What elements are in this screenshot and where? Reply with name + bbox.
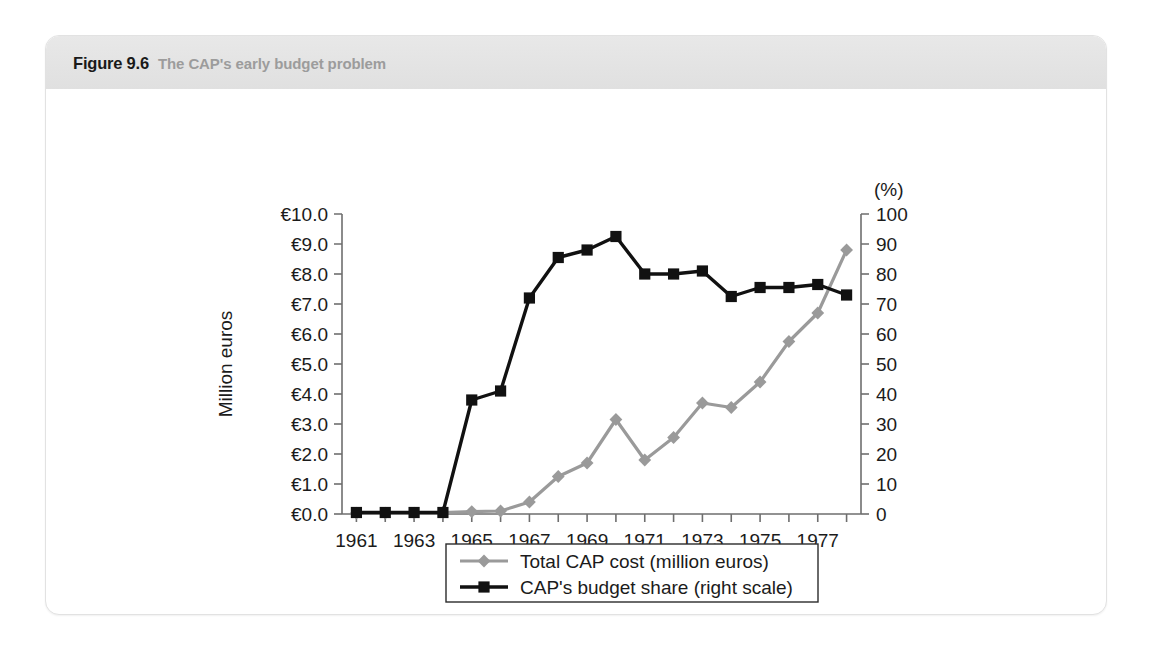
series-2-square-marker — [553, 252, 564, 263]
y-axis-left-tick-label: €4.0 — [291, 384, 328, 405]
y-axis-right-tick-label: 50 — [876, 354, 897, 375]
figure-header-band: Figure 9.6The CAP's early budget problem — [46, 36, 1106, 89]
legend-label-2: CAP's budget share (right scale) — [520, 577, 793, 598]
x-axis-tick-label: 1961 — [335, 530, 377, 551]
series-2-square-marker — [639, 268, 650, 279]
figure-number: Figure 9.6 — [73, 53, 149, 71]
series-2-square-marker — [726, 291, 737, 302]
series-2-square-marker — [437, 507, 448, 518]
y-axis-right-tick-label: 0 — [876, 504, 887, 525]
y-axis-title: Million euros — [215, 311, 236, 418]
y-axis-right-tick-label: 30 — [876, 414, 897, 435]
y-axis-right-tick-label: 80 — [876, 264, 897, 285]
y-axis-left-tick-label: €10.0 — [280, 204, 328, 225]
series-1-diamond-marker — [465, 505, 478, 518]
series-2-square-marker — [812, 279, 823, 290]
series-2-square-marker — [380, 507, 391, 518]
series-2-square-marker — [351, 507, 362, 518]
y-axis-left-tick-label: €6.0 — [291, 324, 328, 345]
y-axis-right-tick-label: 60 — [876, 324, 897, 345]
legend-square-marker-2 — [478, 581, 489, 592]
series-line-1 — [356, 250, 846, 513]
y-axis-left-tick-label: €7.0 — [291, 294, 328, 315]
figure-card: Figure 9.6The CAP's early budget problem… — [45, 35, 1107, 615]
series-2-square-marker — [581, 244, 592, 255]
y-axis-left-tick-label: €3.0 — [291, 414, 328, 435]
y-axis-right-tick-label: 70 — [876, 294, 897, 315]
series-1-diamond-marker — [494, 505, 507, 518]
legend-label-1: Total CAP cost (million euros) — [520, 551, 769, 572]
chart-plot-area: €0.0€1.0€2.0€3.0€4.0€5.0€6.0€7.0€8.0€9.0… — [46, 89, 1107, 615]
series-2-square-marker — [495, 385, 506, 396]
figure-title: Figure 9.6The CAP's early budget problem — [73, 53, 386, 72]
line-chart: €0.0€1.0€2.0€3.0€4.0€5.0€6.0€7.0€8.0€9.0… — [46, 89, 1107, 615]
y-axis-right-tick-label: 10 — [876, 474, 897, 495]
series-2-square-marker — [841, 289, 852, 300]
x-axis-tick-label: 1963 — [393, 530, 435, 551]
figure-caption: The CAP's early budget problem — [158, 54, 386, 71]
series-2-square-marker — [668, 268, 679, 279]
y-axis-right-tick-label: 100 — [876, 204, 908, 225]
series-2-square-marker — [754, 282, 765, 293]
y-axis-left-tick-label: €9.0 — [291, 234, 328, 255]
y-axis-right-tick-label: 40 — [876, 384, 897, 405]
series-2-square-marker — [783, 282, 794, 293]
y-axis-left-tick-label: €5.0 — [291, 354, 328, 375]
y-axis-right-tick-label: 20 — [876, 444, 897, 465]
series-1-diamond-marker — [840, 244, 853, 257]
series-2-square-marker — [408, 507, 419, 518]
series-2-square-marker — [466, 394, 477, 405]
y-axis-left-tick-label: €2.0 — [291, 444, 328, 465]
y-axis-right-unit-label: (%) — [874, 179, 904, 200]
y-axis-right-tick-label: 90 — [876, 234, 897, 255]
series-2-square-marker — [524, 292, 535, 303]
series-line-2 — [356, 237, 846, 513]
y-axis-left-tick-label: €8.0 — [291, 264, 328, 285]
y-axis-left-tick-label: €0.0 — [291, 504, 328, 525]
series-2-square-marker — [697, 265, 708, 276]
series-2-square-marker — [610, 231, 621, 242]
y-axis-left-tick-label: €1.0 — [291, 474, 328, 495]
